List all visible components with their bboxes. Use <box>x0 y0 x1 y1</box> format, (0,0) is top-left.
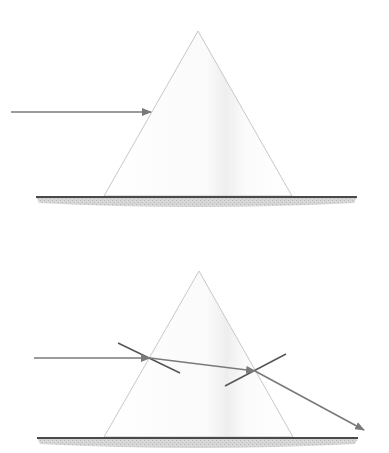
prism-triangle <box>104 271 293 437</box>
prism-refraction-figure: Light ray incident on a triangular prism… <box>0 0 389 453</box>
diagram-incident-ray-on-prism <box>11 31 357 207</box>
diagram-refraction-through-prism <box>34 271 364 448</box>
ground-surface <box>37 438 358 448</box>
prism-triangle <box>104 31 292 196</box>
ground-surface <box>36 197 357 207</box>
diagram-canvas <box>0 0 389 453</box>
